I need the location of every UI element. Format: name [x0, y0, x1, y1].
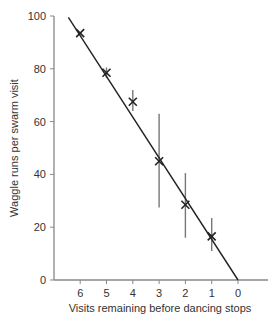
- y-axis-label: Waggle runs per swarm visit: [8, 79, 20, 217]
- y-tick-label: 0: [40, 274, 46, 286]
- x-axis-label: Visits remaining before dancing stops: [69, 302, 252, 314]
- y-tick-label: 100: [28, 10, 46, 22]
- x-tick-label: 0: [235, 287, 241, 299]
- x-tick-label: 5: [103, 287, 109, 299]
- regression-line: [68, 17, 238, 280]
- error-bars: [107, 67, 212, 250]
- fit-line: [68, 17, 238, 280]
- x-tick-label: 3: [156, 287, 162, 299]
- x-tick-label: 6: [77, 287, 83, 299]
- x-tick-label: 4: [130, 287, 136, 299]
- y-tick-label: 40: [34, 168, 46, 180]
- axes: 0204060801006543210: [28, 10, 268, 299]
- x-tick-label: 1: [209, 287, 215, 299]
- y-tick-label: 80: [34, 63, 46, 75]
- x-tick-label: 2: [182, 287, 188, 299]
- y-tick-label: 60: [34, 116, 46, 128]
- y-tick-label: 20: [34, 221, 46, 233]
- chart: 0204060801006543210 Visits remaining bef…: [0, 0, 273, 320]
